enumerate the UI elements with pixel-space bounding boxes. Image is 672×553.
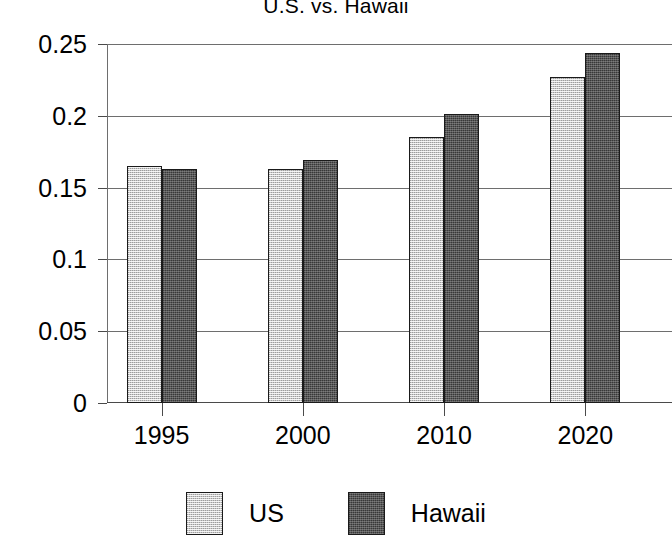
legend-item-us: US xyxy=(186,492,284,535)
y-axis-tick xyxy=(98,44,107,45)
bar-group xyxy=(550,44,620,403)
y-axis-tick xyxy=(98,331,107,332)
x-axis-tick-label: 1995 xyxy=(134,421,190,450)
bar-hawaii-2000 xyxy=(303,160,338,403)
bar-us-2020 xyxy=(550,77,585,403)
bar-us-2000 xyxy=(268,169,303,403)
x-axis-tick xyxy=(444,403,445,416)
bar-group xyxy=(268,44,338,403)
x-axis-tick xyxy=(585,403,586,416)
chart-legend: US Hawaii xyxy=(0,492,672,535)
bar-us-1995 xyxy=(127,166,162,403)
y-axis-tick-label: 0.1 xyxy=(0,245,87,274)
y-axis-tick xyxy=(98,116,107,117)
y-axis-tick-label: 0.25 xyxy=(0,30,87,59)
x-axis-tick-label: 2010 xyxy=(416,421,472,450)
plot-area xyxy=(107,44,672,403)
bar-hawaii-2010 xyxy=(444,114,479,403)
bar-hawaii-1995 xyxy=(162,169,197,403)
x-axis-tick xyxy=(303,403,304,416)
y-axis-tick xyxy=(98,259,107,260)
y-axis-tick-label: 0 xyxy=(0,389,87,418)
x-axis-tick-label: 2020 xyxy=(558,421,614,450)
chart-title: U.S. vs. Hawaii xyxy=(0,0,672,18)
legend-label-hawaii: Hawaii xyxy=(411,499,486,528)
y-axis-tick-label: 0.2 xyxy=(0,101,87,130)
bar-us-2010 xyxy=(409,137,444,403)
y-axis-tick xyxy=(98,403,107,404)
bar-group xyxy=(409,44,479,403)
y-axis-tick xyxy=(98,188,107,189)
bar-groups xyxy=(107,44,672,403)
bar-hawaii-2020 xyxy=(585,53,620,403)
bar-group xyxy=(127,44,197,403)
legend-item-hawaii: Hawaii xyxy=(348,492,486,535)
x-axis-tick xyxy=(162,403,163,416)
y-axis-tick-label: 0.15 xyxy=(0,173,87,202)
legend-swatch-us xyxy=(186,492,223,535)
bar-chart: U.S. vs. Hawaii 00.050.10.150.20.25 1995… xyxy=(0,0,672,553)
legend-swatch-hawaii xyxy=(348,492,385,535)
x-axis-tick-label: 2000 xyxy=(275,421,331,450)
legend-label-us: US xyxy=(249,499,284,528)
y-axis-tick-label: 0.05 xyxy=(0,317,87,346)
